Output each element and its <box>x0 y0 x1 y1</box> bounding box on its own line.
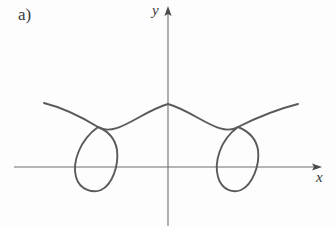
curve-outer-branch-left <box>44 103 168 130</box>
curve-group <box>44 103 298 191</box>
curve-plot <box>0 0 336 226</box>
curve-loop-right <box>217 127 258 191</box>
x-axis-label: x <box>316 169 323 186</box>
curve-loop-left <box>75 127 117 191</box>
y-axis-label: y <box>152 2 159 19</box>
curve-outer-branch-right <box>168 104 298 130</box>
axes-group <box>14 6 322 226</box>
figure-panel: a) y x <box>0 0 336 226</box>
